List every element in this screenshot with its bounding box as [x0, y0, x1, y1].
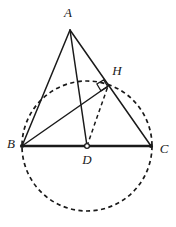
- segment-DH: [87, 86, 108, 146]
- vertex-label-C: C: [160, 141, 169, 156]
- vertex-label-A: A: [63, 5, 72, 20]
- figure-canvas: A B C D H: [0, 0, 176, 227]
- vertex-label-B: B: [7, 136, 15, 151]
- point-marker-D: [85, 144, 90, 149]
- segment-AC: [70, 30, 151, 146]
- vertex-label-D: D: [81, 152, 92, 167]
- geometry-figure: A B C D H: [0, 0, 176, 227]
- point-marker-C: [149, 144, 153, 148]
- point-marker-B: [20, 144, 24, 148]
- vertex-label-H: H: [111, 63, 122, 78]
- segment-AD: [70, 30, 87, 146]
